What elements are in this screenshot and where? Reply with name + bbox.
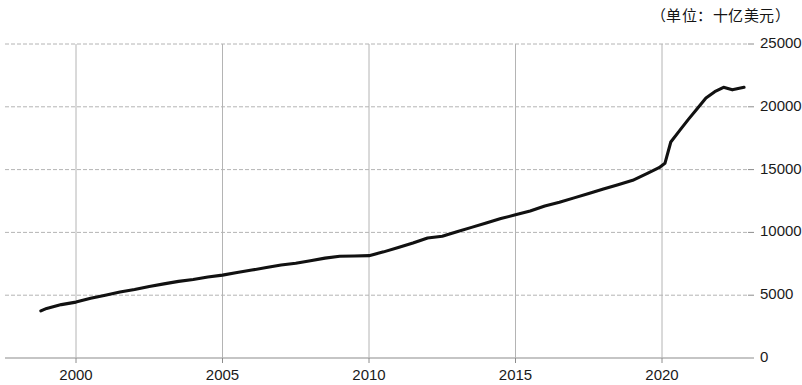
data-series-line bbox=[41, 87, 744, 311]
gridlines bbox=[5, 44, 748, 358]
y-axis-tick-label: 20000 bbox=[760, 97, 802, 114]
x-gridlines bbox=[76, 44, 662, 358]
y-axis-tick-label: 15000 bbox=[760, 160, 802, 177]
x-axis-tick-label: 2010 bbox=[329, 366, 409, 383]
x-axis-tick-label: 2015 bbox=[476, 366, 556, 383]
y-axis-tick-label: 10000 bbox=[760, 222, 802, 239]
x-axis-tick-label: 2000 bbox=[36, 366, 116, 383]
y-axis-tick-label: 5000 bbox=[760, 285, 793, 302]
x-axis-tick-label: 2020 bbox=[622, 366, 702, 383]
y-tick-marks bbox=[748, 44, 754, 358]
y-axis-tick-label: 25000 bbox=[760, 34, 802, 51]
x-axis-tick-label: 2005 bbox=[183, 366, 263, 383]
x-tick-marks bbox=[76, 358, 662, 363]
y-axis-tick-label: 0 bbox=[760, 348, 768, 365]
